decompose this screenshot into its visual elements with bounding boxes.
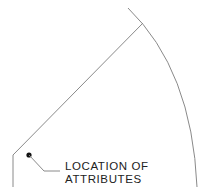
location-of-attributes-label: LOCATION OF ATTRIBUTES — [65, 160, 149, 185]
label-line-2: ATTRIBUTES — [65, 173, 149, 186]
radial-edge-line — [13, 23, 143, 155]
label-line-1: LOCATION OF — [65, 160, 149, 173]
leader-line — [29, 155, 60, 171]
